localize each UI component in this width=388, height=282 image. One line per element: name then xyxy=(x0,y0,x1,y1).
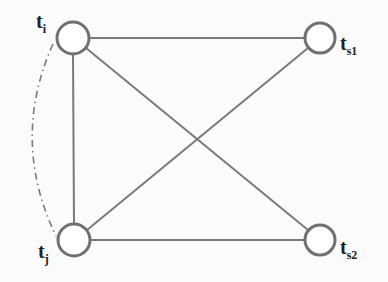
label-tj: tj xyxy=(38,240,49,267)
label-ti: ti xyxy=(36,10,46,37)
label-ts2: ts2 xyxy=(340,236,357,263)
node-tj xyxy=(58,224,90,256)
edge-ti-tj-dashed-curve xyxy=(32,44,56,236)
label-ts1: ts1 xyxy=(340,32,357,59)
graph-diagram xyxy=(0,0,388,282)
node-ts2 xyxy=(305,225,335,255)
edge-ti-tj xyxy=(73,54,74,224)
node-ts1 xyxy=(305,23,335,53)
node-ti xyxy=(57,22,89,54)
